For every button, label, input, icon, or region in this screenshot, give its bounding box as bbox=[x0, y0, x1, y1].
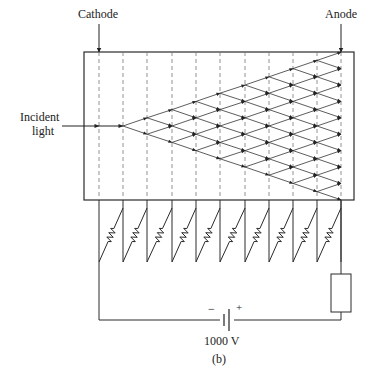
battery-plus-label: + bbox=[236, 301, 242, 313]
load-resistor bbox=[331, 274, 351, 312]
voltage-label: 1000 V bbox=[204, 334, 240, 348]
photomultiplier-diagram: − + 1000 V (b) Cathode Anode Incident li… bbox=[0, 0, 373, 380]
anode-label: Anode bbox=[325, 7, 357, 21]
battery-minus-label: − bbox=[208, 302, 215, 316]
figure-caption: (b) bbox=[212, 352, 226, 366]
incident-light-label-2: light bbox=[32, 124, 55, 138]
battery-symbol bbox=[220, 309, 234, 331]
electron-cascade bbox=[123, 52, 341, 200]
cathode-label: Cathode bbox=[78, 7, 118, 21]
incident-light-label-1: Incident bbox=[20, 110, 60, 124]
return-wire bbox=[99, 262, 341, 320]
resistor-divider-chain bbox=[99, 200, 341, 262]
